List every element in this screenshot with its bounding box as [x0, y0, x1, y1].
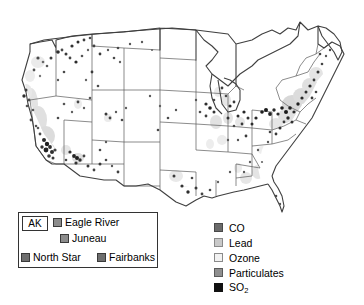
alaska-legend-item-eagle-river: Eagle River	[53, 217, 119, 228]
legend-item-lead: Lead	[214, 235, 284, 250]
legend-label-lead: Lead	[229, 237, 252, 249]
legend-item-ozone: Ozone	[214, 250, 284, 265]
legend-swatch-co	[214, 223, 223, 232]
alaska-legend-item-fairbanks: Fairbanks	[97, 252, 155, 263]
alaska-tag: AK	[22, 216, 48, 231]
legend-swatch-ozone	[214, 253, 223, 262]
alaska-swatch-north-star	[21, 253, 30, 262]
alaska-swatch-eagle-river	[53, 218, 62, 227]
alaska-swatch-fairbanks	[97, 253, 106, 262]
legend-label-so2-subscript: 2	[244, 286, 248, 295]
legend-item-so2: SO2	[214, 280, 284, 295]
legend-label-ozone: Ozone	[229, 252, 260, 264]
legend-label-particulates: Particulates	[229, 267, 284, 279]
legend-label-co: CO	[229, 222, 245, 234]
map-figure: AK Eagle River Juneau North Star Fairban…	[0, 0, 364, 305]
legend-item-co: CO	[214, 220, 284, 235]
alaska-legend: AK Eagle River Juneau North Star Fairban…	[18, 212, 158, 268]
alaska-label-eagle-river: Eagle River	[65, 217, 119, 228]
legend-label-so2-text: SO	[229, 281, 244, 293]
legend-swatch-so2	[214, 283, 223, 292]
national-outline	[22, 22, 344, 212]
alaska-swatch-juneau	[60, 234, 69, 243]
alaska-label-north-star: North Star	[33, 252, 81, 263]
alaska-label-juneau: Juneau	[72, 233, 106, 244]
alaska-legend-item-juneau: Juneau	[60, 233, 106, 244]
pollutant-legend: CO Lead Ozone Particulates SO2	[214, 220, 284, 295]
legend-item-particulates: Particulates	[214, 265, 284, 280]
legend-swatch-particulates	[214, 268, 223, 277]
legend-label-so2: SO2	[229, 281, 248, 295]
legend-swatch-lead	[214, 238, 223, 247]
alaska-label-fairbanks: Fairbanks	[109, 252, 155, 263]
alaska-legend-item-north-star: North Star	[21, 252, 81, 263]
